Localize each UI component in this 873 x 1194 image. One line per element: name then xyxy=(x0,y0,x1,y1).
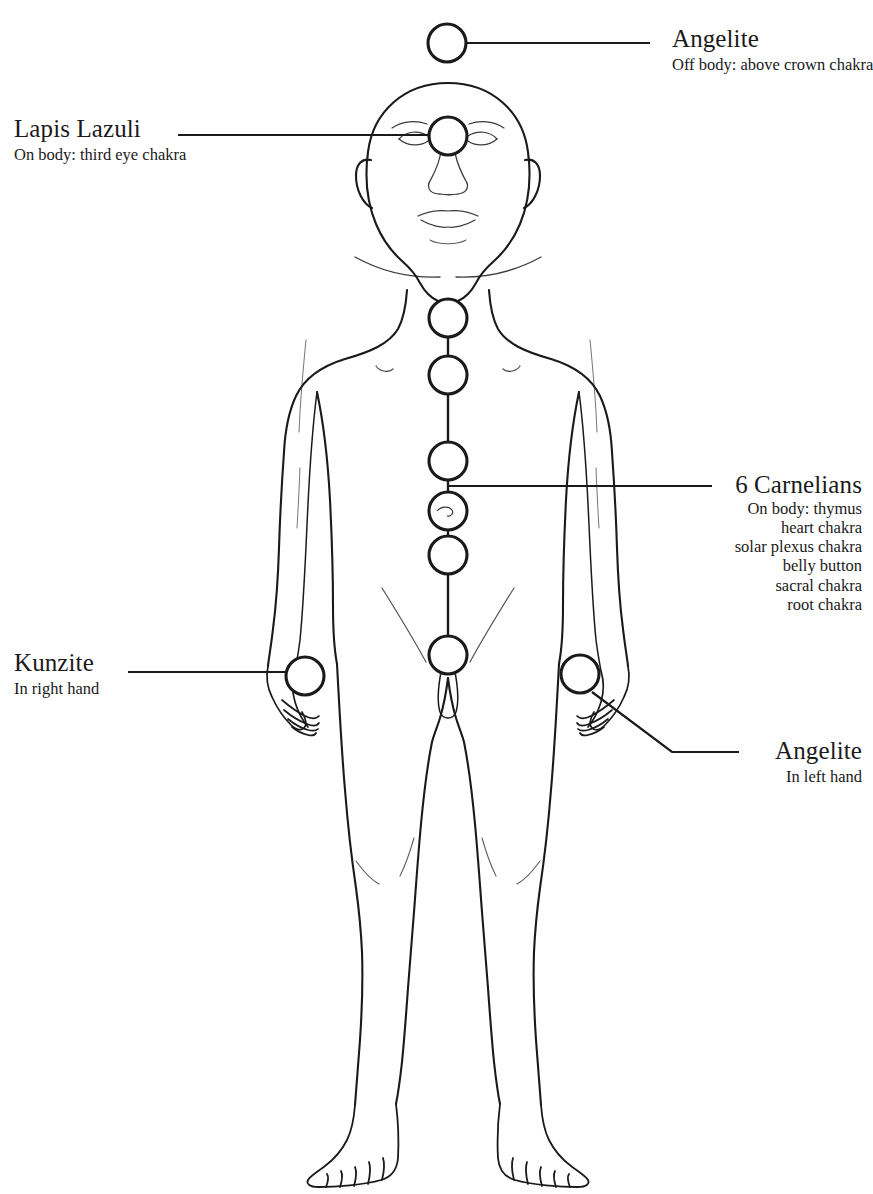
arm-inner-left xyxy=(579,392,601,671)
collarbone-detail xyxy=(355,257,541,277)
arm-inner-right xyxy=(295,392,317,671)
root-stone-circle xyxy=(429,636,467,674)
label-carnelians-line: root chakra xyxy=(735,595,862,614)
heart-stone-circle xyxy=(429,356,467,394)
label-left-hand-title: Angelite xyxy=(775,736,862,765)
label-carnelians-line: sacral chakra xyxy=(735,576,862,595)
chin-detail xyxy=(430,240,466,244)
crown-stone-circle xyxy=(428,24,466,62)
label-crown-angelite: Angelite Off body: above crown chakra xyxy=(672,24,873,74)
label-third-eye-subtitle: On body: third eye chakra xyxy=(14,145,186,164)
label-carnelians-line: solar plexus chakra xyxy=(735,537,862,556)
label-crown-subtitle: Off body: above crown chakra xyxy=(672,55,873,74)
label-carnelians-line: On body: thymus xyxy=(735,499,862,518)
legs-outline xyxy=(337,664,559,1105)
label-carnelians-line: heart chakra xyxy=(735,518,862,537)
label-carnelians: 6 Carnelians On body: thymus heart chakr… xyxy=(735,470,862,614)
label-carnelians-line: belly button xyxy=(735,556,862,575)
label-carnelians-title: 6 Carnelians xyxy=(735,470,862,499)
third-eye-stone-circle xyxy=(429,117,467,155)
thymus-stone-circle xyxy=(429,299,467,337)
label-left-hand-subtitle: In left hand xyxy=(775,767,862,786)
torso-side-left xyxy=(559,392,579,664)
sacral-stone-circle xyxy=(429,536,467,574)
belly-button-stone-circle xyxy=(429,492,467,530)
label-crown-title: Angelite xyxy=(672,24,873,53)
label-right-hand-kunzite: Kunzite In right hand xyxy=(14,648,99,698)
right-foot-outline xyxy=(307,1104,398,1187)
solar-plexus-stone-circle xyxy=(429,442,467,480)
label-left-hand-angelite: Angelite In left hand xyxy=(775,736,862,786)
mouth-detail xyxy=(418,211,478,228)
torso-side-right xyxy=(317,392,337,664)
label-third-eye-title: Lapis Lazuli xyxy=(14,114,186,143)
right-hand-stone-circle xyxy=(286,657,324,695)
label-right-hand-title: Kunzite xyxy=(14,648,99,677)
label-third-eye-lapis-lazuli: Lapis Lazuli On body: third eye chakra xyxy=(14,114,186,164)
left-foot-outline xyxy=(498,1104,589,1187)
nose-detail xyxy=(429,152,468,195)
label-right-hand-subtitle: In right hand xyxy=(14,679,99,698)
left-hand-stone-circle xyxy=(561,655,599,693)
knee-detail xyxy=(356,838,540,884)
